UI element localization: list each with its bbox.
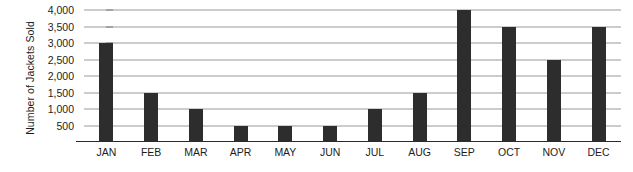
- y-tick-label: 2,000: [30, 71, 74, 82]
- x-tick-label: DEC: [577, 146, 621, 159]
- bar: [234, 126, 248, 143]
- bar: [278, 126, 292, 143]
- bar: [592, 27, 606, 143]
- y-tick-label: 4,000: [30, 5, 74, 16]
- y-tick-label: 500: [30, 120, 74, 131]
- gridline: [84, 76, 621, 77]
- x-tick-label: JUL: [353, 146, 397, 159]
- x-axis-tick-labels: JANFEBMARAPRMAYJUNJULAUGSEPOCTNOVDEC: [84, 146, 621, 162]
- y-tick-label: 1,500: [30, 87, 74, 98]
- bar: [502, 27, 516, 143]
- bar: [144, 93, 158, 143]
- gridline: [84, 92, 621, 93]
- gridline: [84, 26, 621, 27]
- x-tick-label: SEP: [442, 146, 486, 159]
- bar: [457, 10, 471, 142]
- plot-area: [84, 10, 621, 142]
- bar: [368, 109, 382, 142]
- gridline: [84, 59, 621, 60]
- x-tick-label: JUN: [308, 146, 352, 159]
- x-tick-label: FEB: [129, 146, 173, 159]
- x-tick-label: OCT: [487, 146, 531, 159]
- bar: [323, 126, 337, 143]
- y-tick-label: 2,500: [30, 54, 74, 65]
- gridline: [84, 109, 621, 110]
- x-tick-label: JAN: [84, 146, 128, 159]
- bar: [413, 93, 427, 143]
- x-tick-label: APR: [219, 146, 263, 159]
- y-tick-label: 1,000: [30, 104, 74, 115]
- bar: [547, 60, 561, 143]
- gridline: [84, 43, 621, 44]
- bar: [189, 109, 203, 142]
- x-tick-label: MAY: [263, 146, 307, 159]
- gridline: [84, 125, 621, 126]
- y-tick-label: 3,500: [30, 21, 74, 32]
- y-axis-tick-labels: 5001,0001,5002,0002,5003,0003,5004,000: [30, 10, 74, 142]
- y-tick-label: 3,000: [30, 38, 74, 49]
- bar: [99, 43, 113, 142]
- bar-chart: Number of Jackets Sold 5001,0001,5002,00…: [0, 0, 633, 172]
- x-tick-label: MAR: [174, 146, 218, 159]
- x-tick-label: NOV: [532, 146, 576, 159]
- gridline: [84, 10, 621, 11]
- x-tick-label: AUG: [398, 146, 442, 159]
